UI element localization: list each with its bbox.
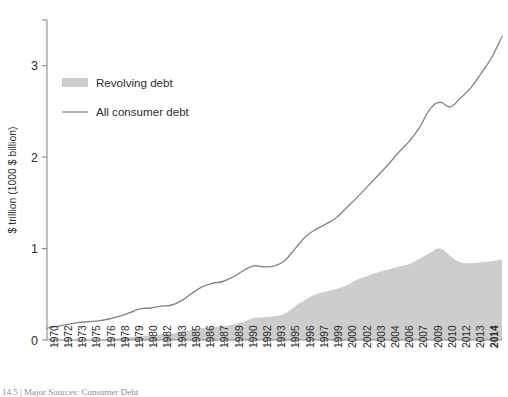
x-axis-tick-label: 1985: [191, 325, 202, 348]
x-axis-tick-label: 1995: [290, 325, 301, 348]
x-axis-tick-label: 1993: [276, 325, 287, 348]
x-axis-tick-label: 2004: [390, 325, 401, 348]
y-axis-title: $ trillion (1000 $ billion): [7, 127, 18, 234]
x-axis-tick-label: 1982: [162, 325, 173, 348]
x-axis-tick-label: 1996: [305, 325, 316, 348]
x-axis-tick-label: 1986: [205, 325, 216, 348]
y-axis-tick-label: 0: [31, 334, 38, 348]
x-axis-tick-label: 2000: [347, 325, 358, 348]
y-axis-tick-label: 1: [31, 242, 38, 256]
figure-caption: 14.5 | Major Sources: Consumer Debt: [2, 387, 138, 397]
x-axis-tick-label: 2014: [489, 325, 500, 348]
legend-label-all-consumer-debt: All consumer debt: [96, 105, 190, 118]
x-axis-tick-label: 1976: [106, 325, 117, 348]
x-axis-tick-label: 2007: [418, 325, 429, 348]
x-axis-tick-label: 1989: [234, 325, 245, 348]
y-axis-tick-label: 2: [31, 151, 38, 165]
x-axis-tick-label: 1997: [319, 325, 330, 348]
x-axis-tick-label: 1992: [262, 325, 273, 348]
y-axis-tick-label: 3: [31, 59, 38, 73]
x-axis-tick-label: 2006: [404, 325, 415, 348]
x-axis-tick-label: 1978: [120, 325, 131, 348]
x-axis-tick-label: 2003: [376, 325, 387, 348]
x-axis-tick-label: 2002: [362, 325, 373, 348]
x-axis-tick-label: 1979: [134, 325, 145, 348]
x-axis-tick-label: 2012: [461, 325, 472, 348]
legend-label-revolving-debt: Revolving debt: [96, 76, 173, 89]
x-axis-tick-label: 2013: [475, 325, 486, 348]
y-axis-ticks: 0123: [31, 20, 47, 348]
legend-swatch-revolving-debt: [62, 78, 88, 87]
x-axis-tick-label: 1973: [77, 325, 88, 348]
y-axis: 0123 $ trillion (1000 $ billion): [7, 20, 47, 348]
x-axis-tick-label: 1970: [49, 325, 60, 348]
x-axis-tick-label: 1980: [148, 325, 159, 348]
x-axis-tick-label: 2009: [433, 325, 444, 348]
chart-legend: Revolving debt All consumer debt: [62, 76, 190, 118]
x-axis-tick-label: 1972: [63, 325, 74, 348]
x-axis-tick-label: 1975: [91, 325, 102, 348]
x-axis-tick-label: 1999: [333, 325, 344, 348]
x-axis-tick-label: 1987: [219, 325, 230, 348]
x-axis-tick-label: 1990: [248, 325, 259, 348]
x-axis-tick-label: 2010: [447, 325, 458, 348]
x-axis-tick-label: 1983: [177, 325, 188, 348]
